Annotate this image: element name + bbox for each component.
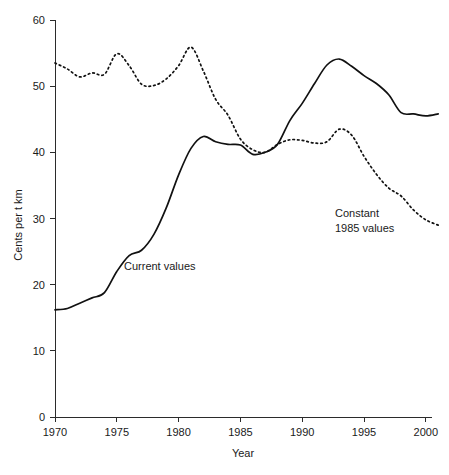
series-label-current-values: Current values	[124, 260, 196, 272]
series-line-constant-1985-values	[55, 47, 438, 225]
y-tick-label: 60	[33, 14, 45, 26]
x-axis-ticks: 1970197519801985199019952000	[43, 417, 438, 438]
line-chart: 0102030405060 19701975198019851990199520…	[0, 0, 449, 475]
y-axis-title: Cents per t km	[12, 189, 24, 261]
y-tick-label: 20	[33, 279, 45, 291]
series-line-current-values	[55, 59, 438, 310]
x-tick-label: 1975	[105, 426, 129, 438]
x-tick-label: 1970	[43, 426, 67, 438]
x-tick-label: 1980	[166, 426, 190, 438]
y-tick-label: 0	[39, 411, 45, 423]
x-tick-label: 1995	[352, 426, 376, 438]
series-label-constant-line1: Constant	[335, 207, 379, 219]
series-group	[55, 47, 438, 310]
x-axis-title: Year	[232, 447, 255, 459]
y-tick-label: 10	[33, 345, 45, 357]
y-tick-label: 40	[33, 146, 45, 158]
x-tick-label: 1990	[290, 426, 314, 438]
series-label-constant-line2: 1985 values	[335, 222, 395, 234]
y-tick-label: 50	[33, 80, 45, 92]
y-tick-label: 30	[33, 213, 45, 225]
y-axis-ticks: 0102030405060	[33, 14, 55, 423]
chart-container: 0102030405060 19701975198019851990199520…	[0, 0, 449, 475]
x-tick-label: 1985	[228, 426, 252, 438]
x-tick-label: 2000	[414, 426, 438, 438]
